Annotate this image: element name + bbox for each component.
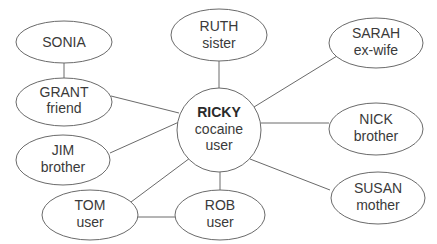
node-ruth-name: RUTH (200, 18, 239, 34)
node-jim-name: JIM (52, 142, 75, 158)
node-ricky-line-1: cocaine (195, 121, 243, 137)
node-rob: ROB user (175, 190, 265, 240)
node-ricky-name: RICKY (197, 104, 241, 120)
node-grant: GRANT friend (16, 78, 112, 126)
node-sonia: SONIA (16, 21, 112, 63)
node-nick: NICK brother (329, 103, 423, 155)
node-jim: JIM brother (16, 135, 110, 185)
edge-sarah-ricky (254, 56, 337, 107)
edge-jim-ricky (110, 122, 179, 153)
node-sarah-role: ex-wife (354, 42, 399, 58)
node-tom: TOM user (42, 190, 138, 240)
node-nick-name: NICK (359, 111, 393, 127)
node-sarah: SARAH ex-wife (329, 18, 423, 68)
node-tom-name: TOM (75, 197, 106, 213)
node-tom-role: user (76, 214, 104, 230)
node-ruth-role: sister (202, 35, 236, 51)
node-susan: SUSAN mother (331, 172, 425, 224)
node-sarah-name: SARAH (352, 25, 400, 41)
node-susan-role: mother (356, 197, 400, 213)
edge-tom-ricky (131, 158, 190, 202)
node-grant-role: friend (46, 100, 81, 116)
node-susan-name: SUSAN (354, 180, 402, 196)
edge-grant-ricky (111, 96, 179, 113)
node-ricky: RICKY cocaine user (177, 88, 261, 172)
node-sonia-name: SONIA (42, 34, 86, 50)
edge-susan-ricky (250, 159, 330, 190)
node-nick-role: brother (354, 128, 399, 144)
node-rob-name: ROB (205, 197, 235, 213)
relationship-diagram: SONIA GRANT friend RUTH sister SARAH ex-… (0, 0, 437, 244)
node-jim-role: brother (41, 159, 86, 175)
node-rob-role: user (206, 214, 234, 230)
node-grant-name: GRANT (40, 84, 89, 100)
node-ruth: RUTH sister (171, 9, 267, 61)
node-ricky-line-2: user (205, 137, 233, 153)
